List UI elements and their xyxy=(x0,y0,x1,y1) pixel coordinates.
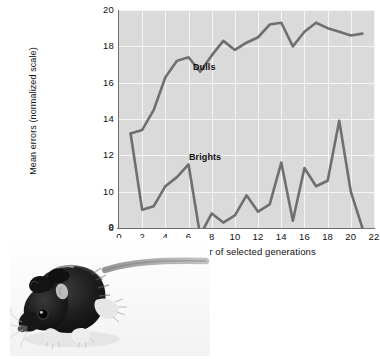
laboratory-rat-photograph xyxy=(10,238,210,356)
line-series-dulls xyxy=(131,23,363,134)
x-tick-label: 20 xyxy=(341,231,361,242)
series-label-brights: Brights xyxy=(189,152,221,162)
gridline-vertical xyxy=(374,10,375,228)
y-tick-label: 20 xyxy=(90,5,114,15)
series-label-dulls: Dulls xyxy=(193,62,216,72)
x-tick-label: 18 xyxy=(318,231,338,242)
x-axis-line xyxy=(117,228,375,229)
y-tick-label: 16 xyxy=(90,78,114,88)
y-axis-line xyxy=(118,10,119,229)
line-series-brights xyxy=(131,121,363,228)
y-tick-label: 12 xyxy=(90,150,114,160)
y-tick-label: 10 xyxy=(90,187,114,197)
x-tick-label: 22 xyxy=(364,231,380,242)
y-tick-label: 14 xyxy=(90,114,114,124)
y-tick-label: 18 xyxy=(90,41,114,51)
x-tick-label: 16 xyxy=(294,231,314,242)
x-tick-label: 10 xyxy=(225,231,245,242)
chart-plot-area xyxy=(119,10,374,228)
y-axis-title: Mean errors (normalized scale) xyxy=(28,31,38,191)
figure-container: 81012141618200 0246810121416182022 Mean … xyxy=(0,0,380,359)
x-tick-label: 14 xyxy=(271,231,291,242)
series-lines-svg xyxy=(119,10,374,228)
x-tick-label: 12 xyxy=(248,231,268,242)
